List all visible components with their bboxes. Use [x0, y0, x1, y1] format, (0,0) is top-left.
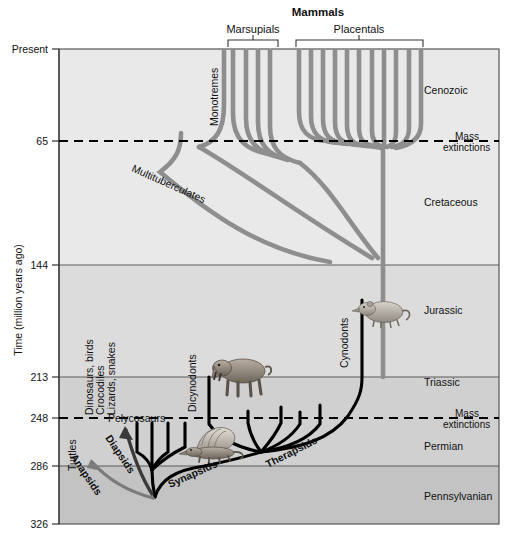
label-mammals: Mammals: [292, 6, 344, 18]
y-tick-label-326: 326: [30, 518, 48, 530]
y-tick-label-present: Present: [12, 43, 48, 55]
period-label-jurassic: Jurassic: [424, 304, 463, 316]
figure-container: Present 65 144 213 248 286 326 Time (mil…: [0, 0, 509, 539]
lineage-label-dicynodonts: Dicynodonts: [186, 354, 198, 412]
band-jurassic: [59, 265, 499, 377]
period-label-cenozoic: Cenozoic: [424, 84, 468, 96]
y-tick-label-286: 286: [30, 460, 48, 472]
y-tick-label-65: 65: [36, 135, 48, 147]
y-tick-label-213: 213: [30, 371, 48, 383]
period-label-permian: Permian: [424, 440, 463, 452]
y-tick-label-144: 144: [30, 259, 48, 271]
bracket-marsupials: [228, 35, 278, 47]
bracket-placentals: [296, 35, 423, 47]
y-tick-label-248: 248: [30, 412, 48, 424]
group-brackets: [228, 35, 423, 47]
y-axis: Present 65 144 213 248 286 326 Time (mil…: [12, 43, 59, 530]
period-label-pennsylvanian: Pennsylvanian: [424, 490, 492, 502]
y-axis-title: Time (million years ago): [12, 244, 24, 356]
period-label-triassic: Triassic: [424, 376, 460, 388]
mass-extinction-65-line2: extinctions: [443, 142, 490, 153]
lineage-label-monotremes: Monotremes: [208, 68, 220, 126]
lineage-label-lizards-snakes: Lizards, snakes: [105, 342, 117, 415]
phylogeny-diagram: Present 65 144 213 248 286 326 Time (mil…: [0, 0, 509, 539]
period-label-cretaceous: Cretaceous: [424, 196, 478, 208]
label-marsupials: Marsupials: [226, 23, 280, 35]
mass-extinction-248-line1: Mass: [455, 408, 479, 419]
lineage-label-cynodonts: Cynodonts: [338, 318, 350, 368]
label-placentals: Placentals: [334, 23, 385, 35]
mass-extinction-248-line2: extinctions: [443, 419, 490, 430]
mass-extinction-65-line1: Mass: [455, 131, 479, 142]
